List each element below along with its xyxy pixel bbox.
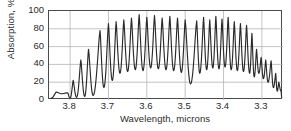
x-tick-3.3: 3.3: [246, 101, 276, 111]
x-tick-3.5: 3.5: [169, 101, 199, 111]
x-tick-3.7: 3.7: [92, 101, 122, 111]
spectrum-plot-svg: [49, 11, 283, 100]
x-tick-3.8: 3.8: [54, 101, 84, 111]
x-axis-label: Wavelength, microns: [48, 113, 282, 124]
absorption-curve: [51, 15, 282, 99]
x-tick-3.4: 3.4: [208, 101, 238, 111]
x-tick-3.6: 3.6: [131, 101, 161, 111]
absorption-spectrum-figure: Absorption, % 020406080100 3.83.73.63.53…: [0, 0, 291, 131]
plot-area: [48, 10, 282, 99]
